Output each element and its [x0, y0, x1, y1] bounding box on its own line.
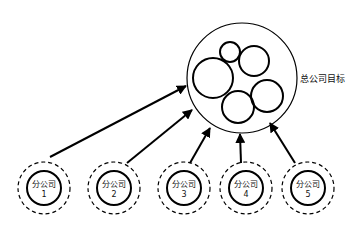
arrow-3 [190, 128, 210, 163]
arrow-4 [240, 134, 241, 163]
child-node-5: 分公司 5 [282, 162, 334, 214]
child-node-2: 分公司 2 [88, 162, 140, 214]
goal-diagram: 总公司目标 分公司 1 分公司 2 分公司 3 分公司 4 分公司 5 [0, 0, 357, 235]
child-node-3: 分公司 3 [158, 162, 210, 214]
svg-text:5: 5 [305, 190, 310, 199]
child-node-4: 分公司 4 [220, 162, 272, 214]
svg-text:分公司: 分公司 [102, 180, 126, 189]
arrow-2 [127, 110, 192, 163]
arrow-1 [50, 86, 186, 157]
svg-text:3: 3 [181, 190, 186, 199]
svg-text:2: 2 [111, 190, 116, 199]
inner-goal-circle [251, 80, 283, 112]
svg-text:4: 4 [243, 190, 248, 199]
inner-goal-circle [239, 46, 269, 76]
svg-text:1: 1 [41, 190, 46, 199]
inner-goal-circle [193, 58, 233, 98]
arrow-5 [270, 123, 295, 163]
svg-text:分公司: 分公司 [172, 180, 196, 189]
parent-goal-label: 总公司目标 [300, 73, 345, 84]
inner-goal-circle [220, 42, 240, 62]
arrows [50, 86, 295, 163]
svg-text:分公司: 分公司 [296, 180, 320, 189]
child-node-1: 分公司 1 [18, 162, 70, 214]
parent-goal-node [187, 23, 297, 133]
svg-text:分公司: 分公司 [32, 180, 56, 189]
inner-goal-circle [222, 91, 254, 123]
svg-text:分公司: 分公司 [234, 180, 258, 189]
